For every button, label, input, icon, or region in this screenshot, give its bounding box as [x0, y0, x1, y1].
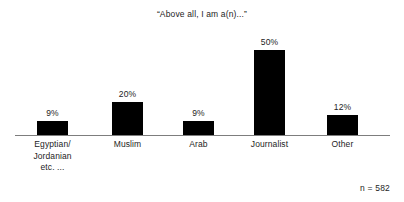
bar-chart: “Above all, I am a(n)...” 9%20%9%50%12% … — [0, 0, 404, 202]
plot-area: 9%20%9%50%12% — [0, 0, 404, 136]
bar-group: 12% — [327, 1, 358, 136]
bar-group: 9% — [37, 1, 68, 136]
x-axis-tick-label: Other — [300, 139, 386, 151]
bar-value-label: 20% — [119, 89, 136, 99]
bar-value-label: 9% — [46, 108, 59, 118]
bar-group: 9% — [183, 1, 214, 136]
x-axis-tick-label-line: etc. ... — [10, 162, 96, 174]
x-axis-tick-label-line: Egyptian/ — [10, 139, 96, 151]
sample-size-footnote: n = 582 — [360, 183, 390, 193]
bar-value-label: 50% — [261, 37, 278, 47]
bar — [327, 115, 358, 136]
x-axis-line — [15, 135, 390, 136]
bar — [37, 121, 68, 136]
bar-group: 50% — [254, 1, 285, 136]
bar-value-label: 12% — [334, 102, 351, 112]
bar-value-label: 9% — [192, 108, 205, 118]
x-axis-tick-labels: Egyptian/Jordanianetc. ...MuslimArabJour… — [0, 139, 404, 187]
x-axis-tick-label-line: Jordanian — [10, 151, 96, 163]
bar — [112, 102, 143, 136]
x-axis-tick-label-line: Other — [300, 139, 386, 151]
x-axis-tick-label: Egyptian/Jordanianetc. ... — [10, 139, 96, 174]
bar — [183, 121, 214, 136]
bar-group: 20% — [112, 1, 143, 136]
bar — [254, 50, 285, 136]
